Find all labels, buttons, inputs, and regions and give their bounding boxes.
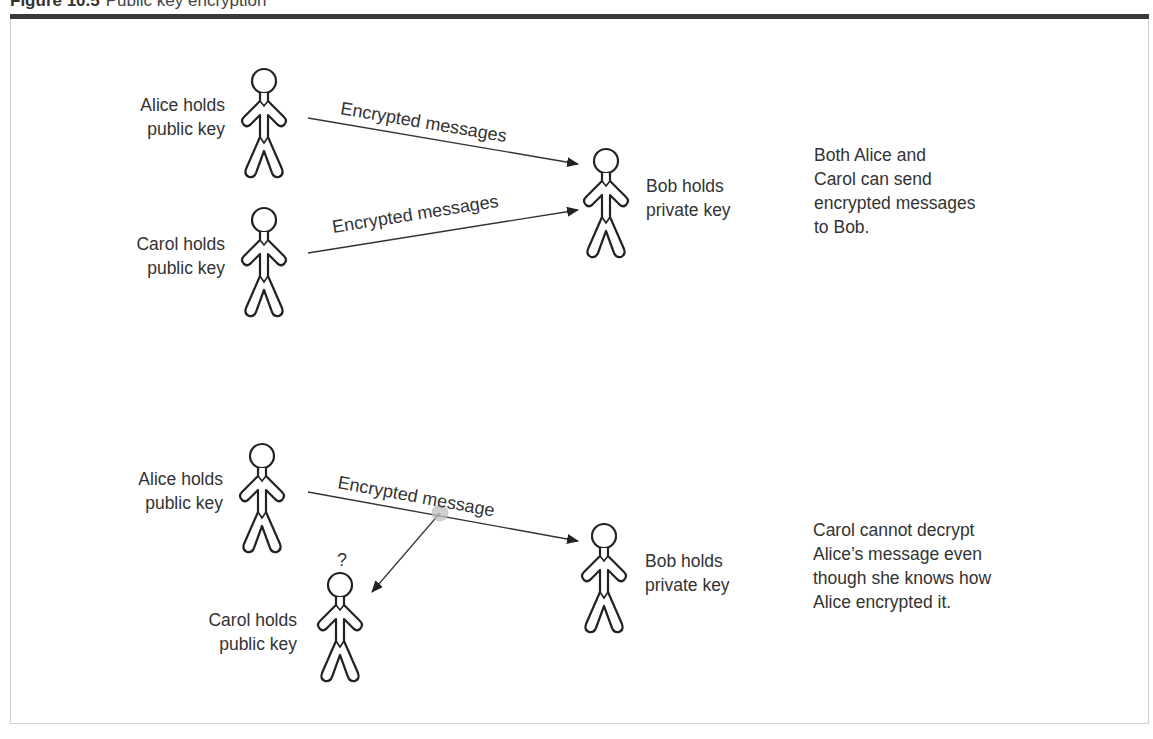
person-icon-carol-bottom: [318, 573, 362, 681]
person-icon-alice-top: [242, 69, 286, 177]
note-top: Both Alice and Carol can send encrypted …: [814, 143, 975, 239]
note-bottom: Carol cannot decrypt Alice’s message eve…: [813, 518, 991, 614]
person-icon-carol-top: [242, 208, 286, 316]
label-bob-bottom: Bob holds private key: [645, 549, 730, 597]
question-mark: ?: [337, 550, 347, 571]
label-alice-bottom: Alice holds public key: [98, 467, 223, 515]
label-alice-top: Alice holds public key: [100, 93, 225, 141]
label-carol-bottom: Carol holds public key: [172, 608, 297, 656]
arrow-intercept-to-carol: [372, 513, 440, 592]
person-icon-bob-top: [584, 149, 628, 257]
person-icon-bob-bottom: [582, 524, 626, 632]
label-bob-top: Bob holds private key: [646, 174, 731, 222]
person-icon-alice-bottom: [240, 444, 284, 552]
label-carol-top: Carol holds public key: [100, 232, 225, 280]
